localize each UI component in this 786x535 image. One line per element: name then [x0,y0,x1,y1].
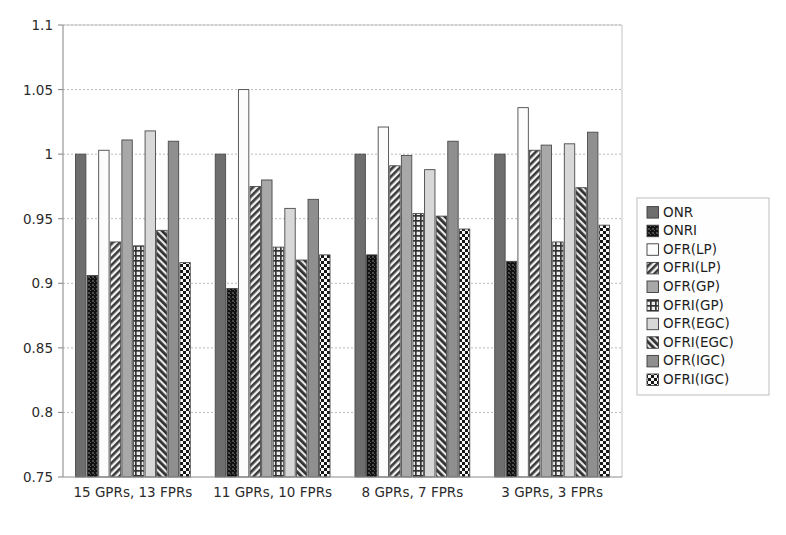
y-tick-label: 0.85 [23,340,53,356]
legend-label: OFRI(IGC) [663,371,729,387]
bar [425,170,435,477]
bar [518,108,528,477]
legend-swatch-ofrgp [647,281,659,293]
bar [378,127,388,477]
bar [227,288,237,477]
legend-label: OFR(EGC) [663,315,730,331]
bar [87,276,97,477]
bar [599,225,609,477]
bar [413,214,423,477]
x-category-label: 8 GPRs, 7 FPRs [362,484,464,500]
bar-chart-figure: 1.11.0510.950.90.850.80.75 15 GPRs, 13 F… [0,0,786,535]
chart-canvas: 1.11.0510.950.90.850.80.75 15 GPRs, 13 F… [0,0,786,535]
legend-swatch-ofriegc [647,337,659,349]
bar [133,246,143,477]
y-tick-label: 0.75 [23,469,53,485]
chart-legend: ONRONRIOFR(LP)OFRI(LP)OFR(GP)OFRI(GP)OFR… [637,198,769,395]
legend-label: OFRI(GP) [663,297,724,313]
legend-swatch-ofriigc [647,374,659,386]
legend-label: OFRI(EGC) [663,334,734,350]
bar [367,255,377,477]
legend-label: OFR(GP) [663,278,720,294]
legend-swatch-ofrigc [647,355,659,367]
bar [250,186,260,477]
bar [576,188,586,477]
legend-swatch-onr [647,207,659,219]
bar [75,154,85,477]
bar [401,155,411,477]
bar [99,150,109,477]
bar [110,242,120,477]
bar [459,229,469,477]
legend-label: ONR [663,204,693,220]
legend-label: ONRI [663,222,697,238]
bar [180,263,190,477]
x-category-label: 11 GPRs, 10 FPRs [213,484,332,500]
legend-label: OFR(IGC) [663,352,725,368]
y-tick-label: 0.9 [32,275,53,291]
bar [296,260,306,477]
bar [262,180,272,477]
legend-swatch-ofrilp [647,262,659,274]
bar [157,230,167,477]
bar [273,247,283,477]
y-tick-label: 1.1 [32,17,53,33]
bar [553,242,563,477]
bar [215,154,225,477]
bar [448,141,458,477]
bar [495,154,505,477]
x-category-label: 3 GPRs, 3 FPRs [501,484,603,500]
y-tick-label: 0.8 [32,404,53,420]
bar [390,166,400,477]
bar [145,131,155,477]
bar [122,140,132,477]
y-tick-label: 0.95 [23,211,53,227]
y-tick-label: 1 [44,146,53,162]
bar [541,145,551,477]
x-category-label: 15 GPRs, 13 FPRs [73,484,192,500]
legend-swatch-ofrlp [647,244,659,256]
bar [530,150,540,477]
legend-label: OFRI(LP) [663,259,721,275]
bar [506,261,516,477]
bar [355,154,365,477]
legend-swatch-ofregc [647,318,659,330]
bar [564,144,574,477]
bar [168,141,178,477]
bar [588,132,598,477]
bar [285,208,295,477]
bar [308,199,318,477]
legend-swatch-onri [647,225,659,237]
bar [436,216,446,477]
bar [320,255,330,477]
y-tick-label: 1.05 [23,82,53,98]
bar [238,90,248,477]
legend-swatch-ofrigp [647,300,659,312]
legend-label: OFR(LP) [663,241,717,257]
